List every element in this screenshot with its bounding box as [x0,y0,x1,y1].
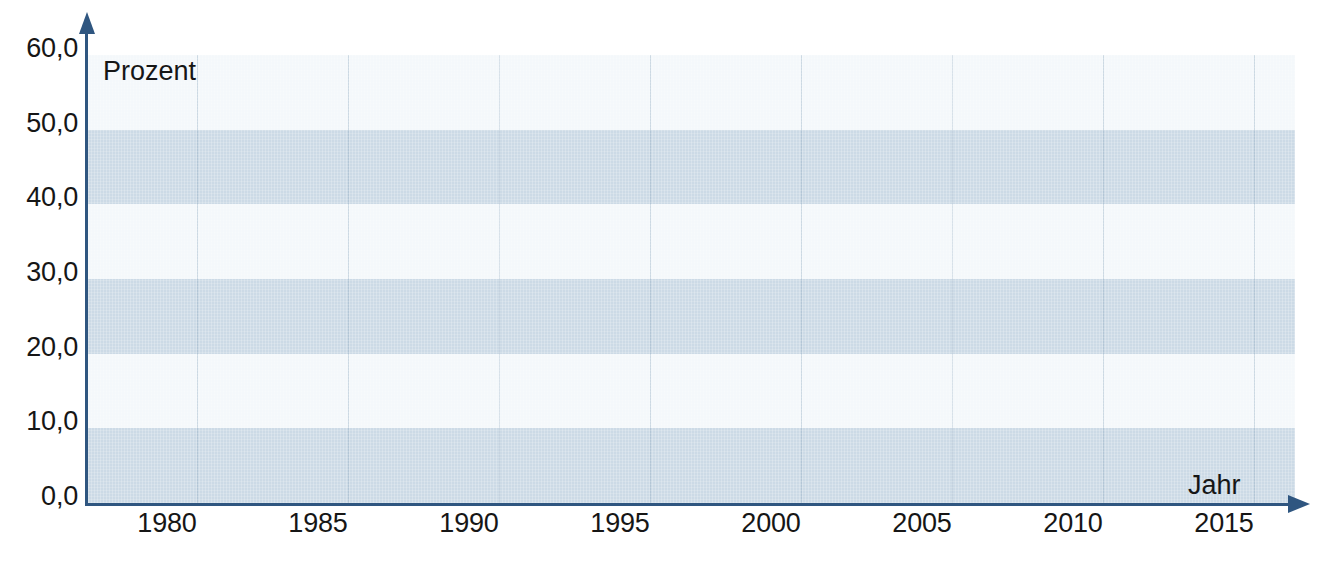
x-tick-label: 1985 [258,508,378,539]
value-band-10-20 [88,354,1295,429]
y-tick-label: 40,0 [8,182,78,213]
plot-area [88,55,1295,503]
y-tick-label: 50,0 [8,108,78,139]
x-tick-label: 1990 [409,508,529,539]
x-tick-label: 2000 [711,508,831,539]
y-tick-label: 20,0 [8,332,78,363]
chart-figure: 60,0 50,0 40,0 30,0 20,0 10,0 0,0 1980 1… [0,0,1330,569]
value-band-0-10 [88,428,1295,503]
gridline-vertical [1103,55,1104,503]
value-band-20-30 [88,279,1295,354]
y-tick-label: 0,0 [8,481,78,512]
x-axis-line [85,503,1290,506]
x-axis-arrow-icon [1288,495,1310,513]
y-tick-label: 30,0 [8,257,78,288]
value-band-30-40 [88,204,1295,279]
x-axis-title: Jahr [1188,470,1241,501]
value-band-50-60 [88,55,1295,130]
gridline-vertical [650,55,651,503]
y-tick-label: 10,0 [8,406,78,437]
value-band-40-50 [88,130,1295,205]
x-tick-label: 2015 [1164,508,1284,539]
y-axis-title: Prozent [103,56,196,87]
x-tick-label: 2005 [862,508,982,539]
x-tick-label: 1995 [560,508,680,539]
x-tick-label: 1980 [107,508,227,539]
y-axis-line [85,30,88,506]
y-tick-label: 60,0 [8,33,78,64]
gridline-vertical [952,55,953,503]
gridline-vertical [197,55,198,503]
x-tick-label: 2010 [1013,508,1133,539]
gridline-vertical [499,55,500,503]
gridline-vertical [348,55,349,503]
gridline-vertical [1254,55,1255,503]
y-axis-arrow-icon [79,12,95,34]
gridline-vertical [801,55,802,503]
